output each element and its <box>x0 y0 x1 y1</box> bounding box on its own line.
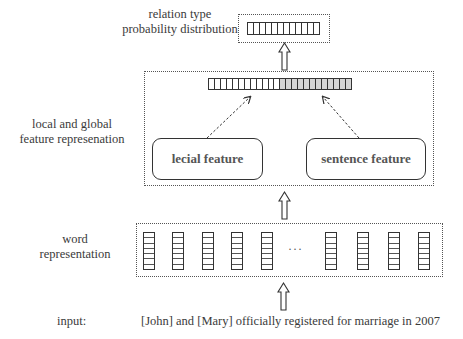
vector-cell <box>389 265 399 269</box>
vector-cell <box>144 265 154 269</box>
word-vector <box>357 232 369 270</box>
vector-cell <box>358 265 368 269</box>
vector-cell <box>232 265 242 269</box>
up-arrow-icon <box>279 43 290 70</box>
arrows-layer <box>0 0 463 339</box>
vector-cell <box>419 265 429 269</box>
word-vector <box>325 232 337 270</box>
word-vector <box>202 232 214 270</box>
vector-cell <box>262 265 272 269</box>
lexical-to-vector-arrow <box>207 97 250 138</box>
word-vector <box>231 232 243 270</box>
word-vector <box>172 232 184 270</box>
word-vector <box>418 232 430 270</box>
word-vector <box>388 232 400 270</box>
vector-cell <box>203 265 213 269</box>
word-vector <box>143 232 155 270</box>
vector-cell <box>326 265 336 269</box>
up-arrow-icon <box>279 192 290 219</box>
sentence-to-vector-arrow <box>323 97 359 138</box>
word-vector <box>261 232 273 270</box>
up-arrow-icon <box>278 283 289 310</box>
vector-cell <box>173 265 183 269</box>
